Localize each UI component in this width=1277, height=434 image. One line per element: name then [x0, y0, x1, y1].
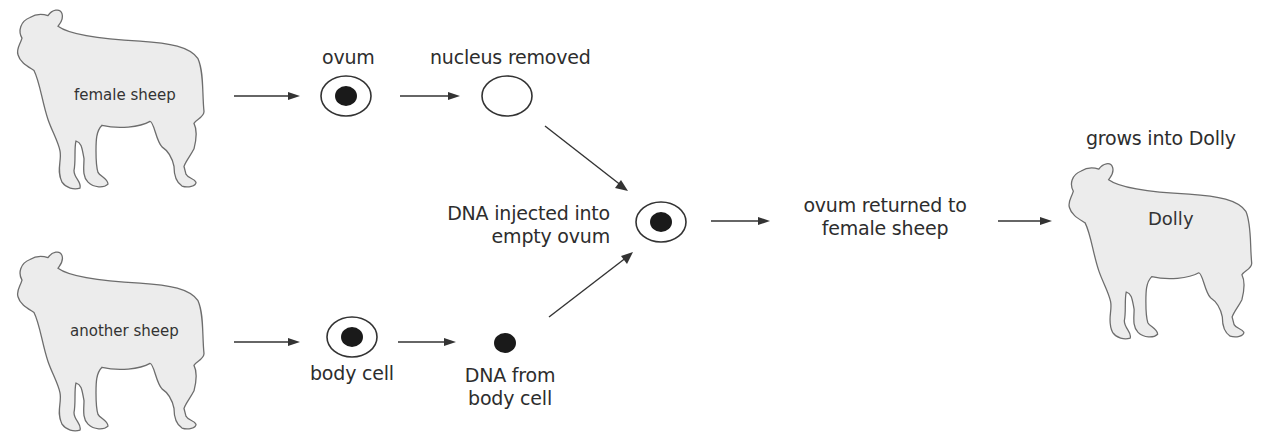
- another-sheep-silhouette: [17, 252, 204, 431]
- ovum-label: ovum: [322, 46, 375, 68]
- female-sheep-label: female sheep: [74, 86, 176, 104]
- injected-ovum-icon: [636, 202, 686, 242]
- dna-injected-line2: empty ovum: [420, 225, 610, 248]
- body-cell-label: body cell: [310, 362, 394, 384]
- dna-from-body-cell-line1: DNA from: [455, 364, 565, 387]
- nucleus-removed-label: nucleus removed: [430, 46, 591, 68]
- arrow-another-to-body-cell: [234, 338, 300, 346]
- arrow-body-cell-to-dna: [398, 338, 456, 346]
- arrow-injected-to-returned: [711, 217, 770, 225]
- body-cell-icon: [327, 317, 377, 357]
- arrow-nucleus-removed-to-injected: [545, 126, 628, 191]
- dna-from-body-cell-line2: body cell: [455, 387, 565, 410]
- empty-ovum-icon: [482, 76, 532, 116]
- dna-nucleus-icon: [494, 333, 516, 353]
- ovum-cell-icon: [321, 76, 371, 116]
- dolly-label: Dolly: [1148, 208, 1194, 229]
- ovum-returned-label: ovum returned to female sheep: [790, 194, 980, 240]
- arrow-dna-to-injected: [549, 252, 633, 317]
- ovum-returned-line1: ovum returned to: [790, 194, 980, 217]
- diagram-graphics: [0, 0, 1277, 434]
- dolly-cloning-diagram: female sheep another sheep Dolly ovum nu…: [0, 0, 1277, 434]
- arrow-returned-to-dolly: [998, 217, 1052, 225]
- arrow-ovum-to-nucleus-removed: [400, 92, 460, 100]
- ovum-returned-line2: female sheep: [790, 217, 980, 240]
- dna-injected-label: DNA injected into empty ovum: [420, 202, 610, 248]
- dna-injected-line1: DNA injected into: [420, 202, 610, 225]
- dna-from-body-cell-label: DNA from body cell: [455, 364, 565, 410]
- another-sheep-label: another sheep: [70, 322, 179, 340]
- dolly-sheep-silhouette: [1069, 164, 1252, 339]
- arrow-female-to-ovum: [234, 92, 300, 100]
- grows-into-dolly-caption: grows into Dolly: [1086, 127, 1236, 149]
